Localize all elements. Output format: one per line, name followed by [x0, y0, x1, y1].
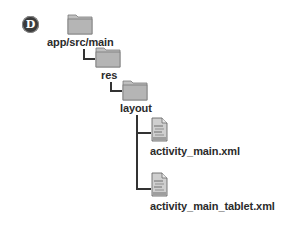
step-badge: D: [22, 16, 39, 33]
tree-connector: [136, 132, 151, 134]
file-label-activity-main: activity_main.xml: [150, 145, 240, 157]
xml-file-icon: [151, 117, 168, 142]
xml-file-icon: [151, 172, 168, 197]
tree-connector: [83, 58, 95, 60]
folder-icon: [67, 12, 93, 35]
tree-connector: [110, 90, 122, 92]
step-badge-letter: D: [26, 18, 36, 31]
folder-icon: [95, 45, 121, 68]
folder-label-layout: layout: [120, 102, 152, 114]
file-label-activity-main-tablet: activity_main_tablet.xml: [150, 200, 275, 212]
folder-label-res: res: [101, 69, 117, 81]
tree-connector: [136, 115, 138, 189]
folder-icon: [122, 78, 148, 101]
tree-connector: [136, 188, 151, 190]
